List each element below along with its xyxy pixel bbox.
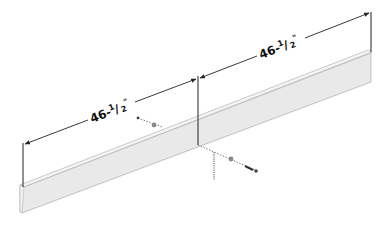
- screw-right-icon: [198, 145, 258, 173]
- board-dimension-diagram: 46- 1 / 2 " 46- 1 / 2 ": [0, 0, 392, 226]
- board-top-face: [20, 50, 372, 187]
- screw-left-icon: [137, 117, 162, 128]
- board-front-face: [20, 53, 371, 213]
- board: [20, 50, 372, 213]
